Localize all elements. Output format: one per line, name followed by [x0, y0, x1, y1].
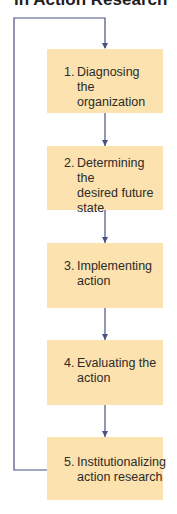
step-label: Diagnosing the organization — [77, 65, 157, 110]
step-number: 2. — [64, 156, 77, 216]
step-box-5: 5. Institutionalizing action research — [47, 437, 163, 500]
step-label: Evaluating the action — [77, 356, 157, 386]
step-number: 4. — [64, 356, 77, 386]
diagram-title: in Action Research — [14, 0, 167, 9]
step-label: Determining the desired future state — [77, 156, 157, 216]
step-number: 5. — [64, 455, 77, 485]
step-box-1: 1. Diagnosing the organization — [47, 49, 163, 113]
step-box-4: 4. Evaluating the action — [47, 340, 163, 405]
step-label: Implementing action — [77, 259, 157, 289]
step-number: 1. — [64, 65, 77, 110]
step-label: Institutionalizing action research — [77, 455, 166, 485]
step-box-2: 2. Determining the desired future state — [47, 146, 163, 210]
step-number: 3. — [64, 259, 77, 289]
step-box-3: 3. Implementing action — [47, 243, 163, 308]
